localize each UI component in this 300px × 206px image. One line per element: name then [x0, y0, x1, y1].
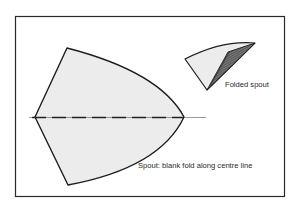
folded-spout-label: Folded spout	[225, 81, 269, 89]
spout-diagram	[0, 0, 300, 206]
spout-caption: Spout: blank fold along centre line	[138, 162, 252, 170]
